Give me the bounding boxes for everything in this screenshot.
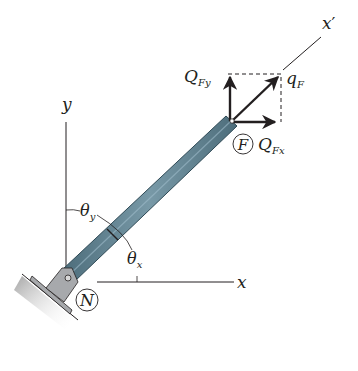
x-axis-label: x: [237, 272, 247, 292]
q-fx-label: QFx: [258, 134, 285, 156]
theta-x-label: θx: [127, 249, 143, 270]
q-fy-label: QFy: [184, 66, 211, 88]
q-f-label: qF: [286, 68, 305, 90]
angle-arc: [66, 210, 80, 211]
y-axis-label: y: [61, 94, 72, 114]
node-f-label: F: [237, 136, 249, 154]
truss-member-diagram: N F y x x′ θy θx QFy qF QFx: [0, 0, 358, 371]
bar-member: [62, 116, 237, 282]
theta-y-label: θy: [80, 201, 96, 222]
q-f-arrow: [232, 77, 278, 121]
node-n-label: N: [79, 291, 95, 310]
joint-f-point: [230, 119, 234, 123]
x-prime-axis: [283, 37, 321, 70]
x-prime-axis-label: x′: [322, 13, 336, 33]
